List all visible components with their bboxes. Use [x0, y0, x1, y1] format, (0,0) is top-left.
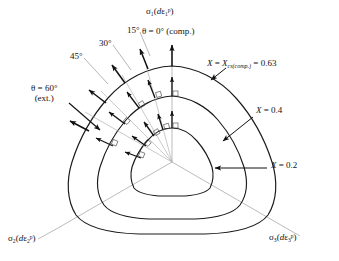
leader-30	[113, 45, 131, 70]
contour-label-inner: X = 0.2	[271, 161, 297, 170]
guide-ray-15	[146, 65, 172, 162]
strain-vectors-theta-15	[140, 49, 170, 130]
vector-theta30-outer	[112, 65, 125, 83]
vector-theta45-inner	[132, 136, 146, 146]
theta-comp-note: (comp.)	[166, 26, 194, 36]
axis-sigma3-line	[172, 162, 286, 228]
callout-arrow-middle	[223, 117, 253, 141]
theta-ext-symbol: θ	[31, 83, 35, 93]
callout-arrow-outer	[211, 68, 226, 80]
contour-label-outer: X = Xcs(comp.) = 0.63	[207, 59, 276, 69]
contour-middle-X: X	[256, 105, 262, 115]
theta-ext-value: 60°	[45, 83, 58, 93]
contour-outer-eq2: =	[253, 58, 258, 68]
contour-inner-value: 0.2	[286, 160, 297, 170]
contour-outer-subscript: cs(comp.)	[228, 63, 252, 69]
vector-theta45-middle	[109, 112, 125, 124]
vector-theta15-middle	[148, 80, 155, 98]
theta-ext-eq: =	[38, 83, 43, 93]
right-angle-marker-theta0-inner	[173, 123, 178, 128]
contour-outer-X: X	[207, 58, 213, 68]
vector-theta15-inner	[158, 114, 163, 130]
leader-45	[84, 58, 108, 84]
right-angle-marker-theta0-middle	[173, 91, 178, 96]
strain-vectors-theta-0	[172, 45, 178, 128]
axis-sigma2-line	[58, 162, 172, 228]
axis-label-sigma2: σ2(dε2p)	[8, 234, 36, 244]
guide-ray-30	[122, 75, 172, 162]
theta-comp-eq: =	[149, 26, 154, 36]
normality-guide-rays	[85, 65, 172, 162]
strain-vectors-theta-45	[89, 90, 151, 146]
leader-theta60	[69, 103, 100, 130]
axis-label-sigma1-text: σ1(dε1p)	[146, 6, 174, 16]
theta-ext-note: (ext.)	[31, 94, 58, 103]
principal-axes	[58, 46, 286, 228]
axis-label-sigma3-text: σ3(dε3p)	[269, 232, 297, 242]
vector-theta30-inner	[144, 122, 154, 136]
vector-theta60-outer	[70, 121, 89, 131]
contour-middle-value: 0.4	[271, 105, 282, 115]
contour-inner-eq: =	[279, 160, 284, 170]
figure-canvas: σ1(dε1p) θ = 0° (comp.) 15° 30° 45° θ = …	[0, 0, 339, 261]
vector-theta45-outer	[89, 90, 106, 103]
vector-theta15-outer	[140, 49, 148, 69]
contour-inner-X: X	[271, 160, 277, 170]
yield-surface-diagram	[0, 0, 339, 261]
axis-label-sigma2-text: σ2(dε2p)	[8, 233, 36, 243]
axis-label-sigma3: σ3(dε3p)	[269, 233, 297, 243]
theta-comp-value: 0°	[156, 26, 164, 36]
angle-label-15: 15°	[127, 26, 140, 35]
theta-comp-symbol: θ	[142, 26, 146, 36]
theta-ext-label: θ = 60° (ext.)	[31, 84, 58, 104]
theta-ext-line1: θ = 60°	[31, 84, 58, 93]
contour-outer-value: 0.63	[261, 58, 277, 68]
right-angle-marker-theta15-middle	[156, 91, 162, 97]
contour-middle-eq: =	[264, 105, 269, 115]
theta-comp-label: θ = 0° (comp.)	[142, 27, 195, 36]
contour-outer-eq: =	[215, 58, 220, 68]
leader-sigma2	[38, 228, 58, 239]
contour-label-middle: X = 0.4	[256, 106, 282, 115]
angle-label-45: 45°	[70, 52, 83, 61]
axis-label-sigma1: σ1(dε1p)	[146, 7, 174, 17]
angle-label-30: 30°	[99, 39, 112, 48]
angle-leader-lines	[84, 32, 150, 84]
